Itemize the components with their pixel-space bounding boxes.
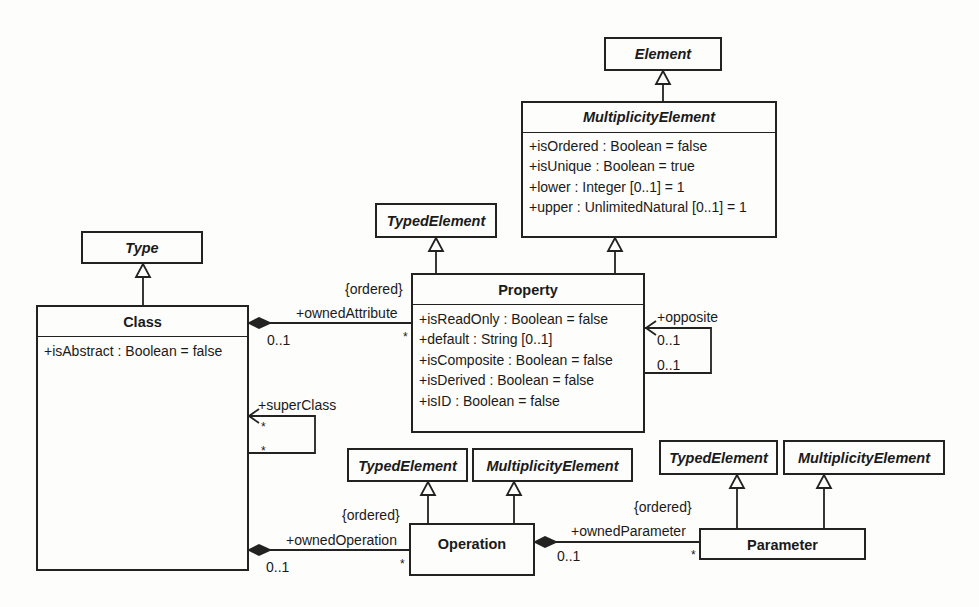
role-label: +ownedParameter — [571, 524, 686, 538]
class-name: Parameter — [701, 530, 864, 553]
attribute: +isID : Boolean = false — [419, 391, 643, 412]
multiplicity-label: 0..1 — [267, 333, 290, 347]
attribute: +isAbstract : Boolean = false — [44, 341, 247, 362]
class-box-typed-element-operation[interactable]: TypedElement — [347, 448, 468, 482]
multiplicity-label: 0..1 — [657, 358, 680, 372]
class-name: TypedElement — [661, 442, 776, 466]
class-box-class[interactable]: Class +isAbstract : Boolean = false — [36, 305, 249, 571]
constraint-label: {ordered} — [345, 282, 403, 296]
attribute-list: +isOrdered : Boolean = false +isUnique :… — [523, 132, 775, 218]
class-name: Class — [38, 307, 247, 336]
attribute-list: +isReadOnly : Boolean = false +default :… — [413, 304, 643, 412]
class-box-element[interactable]: Element — [604, 37, 722, 71]
class-box-multiplicity-element-parameter[interactable]: MultiplicityElement — [783, 440, 945, 475]
attribute: +isComposite : Boolean = false — [419, 350, 643, 371]
class-name: Operation — [411, 525, 533, 552]
generalization-operation-to-typedelement — [421, 482, 435, 523]
role-label: +ownedOperation — [286, 533, 397, 547]
attribute: +default : String [0..1] — [419, 329, 643, 350]
class-box-parameter[interactable]: Parameter — [699, 528, 866, 560]
class-box-operation[interactable]: Operation — [409, 523, 535, 576]
generalization-parameter-to-typedelement — [730, 475, 744, 528]
generalization-parameter-to-multiplicity — [817, 475, 831, 528]
class-name: Property — [413, 275, 643, 304]
generalization-class-to-type — [136, 264, 150, 305]
attribute: +isReadOnly : Boolean = false — [419, 309, 643, 330]
generalization-operation-to-multiplicity — [507, 482, 521, 523]
attribute: +isUnique : Boolean = true — [529, 156, 775, 177]
class-box-multiplicity-element[interactable]: MultiplicityElement +isOrdered : Boolean… — [521, 101, 777, 238]
generalization-property-to-typedelement — [429, 238, 443, 273]
multiplicity-label: * — [400, 558, 405, 570]
class-name: Element — [606, 39, 720, 62]
class-name: MultiplicityElement — [474, 450, 631, 474]
attribute: +upper : UnlimitedNatural [0..1] = 1 — [529, 197, 775, 218]
attribute: +isDerived : Boolean = false — [419, 370, 643, 391]
class-name: MultiplicityElement — [523, 103, 775, 132]
multiplicity-label: 0..1 — [557, 549, 580, 563]
role-label: +opposite — [657, 310, 718, 324]
constraint-label: {ordered} — [634, 500, 692, 514]
attribute-list: +isAbstract : Boolean = false — [38, 336, 247, 567]
multiplicity-label: 0..1 — [266, 560, 289, 574]
class-box-multiplicity-element-operation[interactable]: MultiplicityElement — [472, 448, 633, 482]
class-name: MultiplicityElement — [785, 442, 943, 466]
class-name: TypedElement — [349, 450, 466, 474]
multiplicity-label: * — [261, 421, 266, 433]
class-box-property[interactable]: Property +isReadOnly : Boolean = false +… — [411, 273, 645, 433]
class-box-typed-element-parameter[interactable]: TypedElement — [659, 440, 778, 475]
class-name: Type — [83, 233, 201, 256]
multiplicity-label: * — [403, 331, 408, 343]
role-label: +superClass — [258, 398, 336, 412]
generalization-multiplicity-to-element — [656, 71, 670, 101]
role-label: +ownedAttribute — [296, 306, 398, 320]
multiplicity-label: 0..1 — [657, 333, 680, 347]
attribute: +isOrdered : Boolean = false — [529, 136, 775, 157]
class-box-typed-element[interactable]: TypedElement — [375, 203, 497, 238]
class-box-type[interactable]: Type — [81, 231, 203, 264]
generalization-property-to-multiplicity — [608, 238, 622, 273]
multiplicity-label: * — [261, 445, 266, 457]
association-superclass-loop — [249, 409, 315, 453]
constraint-label: {ordered} — [342, 508, 400, 522]
multiplicity-label: * — [691, 549, 696, 561]
class-name: TypedElement — [377, 205, 495, 229]
attribute: +lower : Integer [0..1] = 1 — [529, 177, 775, 198]
